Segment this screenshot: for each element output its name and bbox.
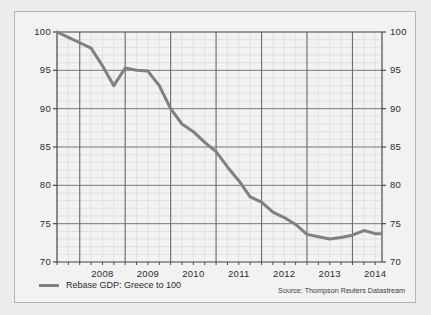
y-tick-75: 75 <box>21 218 51 229</box>
y-tick-right-85: 85 <box>390 141 420 152</box>
chart-legend: Rebase GDP: Greece to 100 <box>39 280 181 290</box>
x-tick-2011: 2011 <box>219 268 259 279</box>
x-tick-2010: 2010 <box>173 268 213 279</box>
y-tick-right-90: 90 <box>390 103 420 114</box>
y-tick-right-75: 75 <box>390 218 420 229</box>
y-tick-right-95: 95 <box>390 64 420 75</box>
y-tick-right-70: 70 <box>390 256 420 267</box>
x-tick-2012: 2012 <box>264 268 304 279</box>
x-tick-2013: 2013 <box>310 268 350 279</box>
x-tick-2014: 2014 <box>355 268 395 279</box>
x-tick-2009: 2009 <box>128 268 168 279</box>
y-tick-right-100: 100 <box>390 26 420 37</box>
major-gridlines <box>57 32 382 262</box>
y-tick-right-80: 80 <box>390 179 420 190</box>
gdp-line-chart <box>15 12 417 304</box>
y-tick-90: 90 <box>21 103 51 114</box>
x-tick-2008: 2008 <box>82 268 122 279</box>
source-attribution: Source: Thompson Reuters Datastream <box>278 286 405 295</box>
chart-frame: 707580859095100 707580859095100 20082009… <box>14 11 416 303</box>
legend-label: Rebase GDP: Greece to 100 <box>66 280 181 290</box>
y-tick-95: 95 <box>21 64 51 75</box>
y-tick-80: 80 <box>21 179 51 190</box>
y-tick-70: 70 <box>21 256 51 267</box>
y-tick-85: 85 <box>21 141 51 152</box>
y-tick-100: 100 <box>21 26 51 37</box>
legend-color-swatch <box>39 284 59 287</box>
